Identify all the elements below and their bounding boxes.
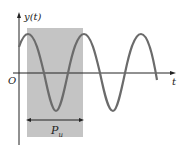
x-axis-arrow-icon — [170, 71, 176, 75]
origin-label: O — [8, 75, 16, 86]
x-axis-label: t — [172, 76, 176, 87]
period-label: Pu — [51, 124, 63, 139]
y-axis-label: y(t) — [24, 11, 41, 22]
signal-diagram — [0, 0, 185, 151]
period-label-subscript: u — [58, 131, 63, 139]
y-axis-arrow-icon — [17, 12, 21, 18]
